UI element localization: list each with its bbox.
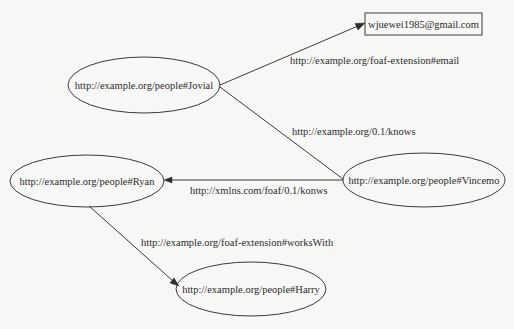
node-label: http://example.org/people#Harry xyxy=(182,284,320,295)
node-label: wjuewei1985@gmail.com xyxy=(368,19,479,30)
node-email[interactable]: wjuewei1985@gmail.com xyxy=(365,13,482,35)
edge-jovial-vincemo: http://example.org/0.1/knows xyxy=(220,87,415,179)
node-harry[interactable]: http://example.org/people#Harry xyxy=(176,262,326,316)
node-ryan[interactable]: http://example.org/people#Ryan xyxy=(10,155,164,207)
edge-label-email: http://example.org/foaf-extension#email xyxy=(290,55,459,66)
graph-canvas: http://example.org/foaf-extension#email … xyxy=(0,0,514,329)
node-label: http://example.org/people#Jovial xyxy=(75,80,213,91)
arrowhead-icon xyxy=(164,177,172,183)
edge-ryan-harry: http://example.org/foaf-extension#worksW… xyxy=(89,206,334,286)
arrowhead-icon xyxy=(355,23,365,30)
edge-label-konws: http://xmlns.com/foaf/0.1/konws xyxy=(190,185,328,196)
edge-label-knows: http://example.org/0.1/knows xyxy=(292,126,415,137)
edge-jovial-email: http://example.org/foaf-extension#email xyxy=(220,23,459,85)
edge-vincemo-ryan: http://xmlns.com/foaf/0.1/konws xyxy=(164,177,343,196)
node-label: http://example.org/people#Vincemo xyxy=(348,175,499,186)
node-vincemo[interactable]: http://example.org/people#Vincemo xyxy=(343,153,505,207)
edge-label-workswith: http://example.org/foaf-extension#worksW… xyxy=(141,237,334,248)
node-label: http://example.org/people#Ryan xyxy=(20,176,156,187)
node-jovial[interactable]: http://example.org/people#Jovial xyxy=(68,57,220,113)
